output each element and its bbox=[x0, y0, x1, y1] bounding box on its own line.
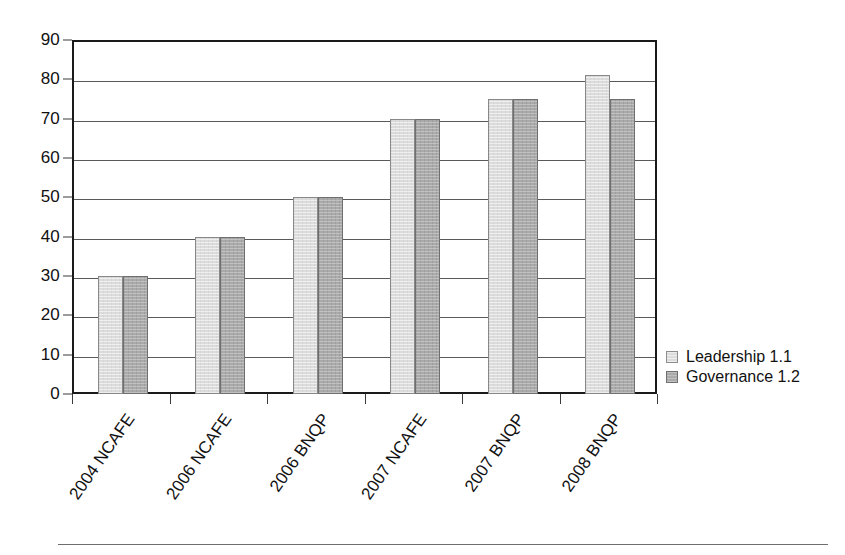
bar bbox=[513, 99, 538, 394]
legend-swatch-icon bbox=[666, 351, 678, 363]
y-tick-mark bbox=[63, 354, 72, 355]
y-tick-mark bbox=[63, 394, 72, 395]
y-tick-label: 10 bbox=[41, 345, 60, 365]
bar bbox=[488, 99, 513, 394]
x-tick-mark bbox=[72, 394, 73, 404]
y-tick-mark bbox=[63, 158, 72, 159]
y-tick-mark bbox=[63, 118, 72, 119]
y-tick-label: 60 bbox=[41, 148, 60, 168]
x-tick-mark bbox=[560, 394, 561, 404]
page-divider-rule bbox=[58, 544, 828, 545]
bars-layer bbox=[72, 40, 657, 394]
y-tick-label: 80 bbox=[41, 69, 60, 89]
chart-legend: Leadership 1.1Governance 1.2 bbox=[666, 348, 800, 388]
y-tick-mark bbox=[63, 315, 72, 316]
bar bbox=[610, 99, 635, 394]
y-tick-mark bbox=[63, 197, 72, 198]
x-tick-label: 2004 NCAFE bbox=[65, 410, 139, 504]
bar-chart-figure: 0102030405060708090 2004 NCAFE2006 NCAFE… bbox=[0, 0, 845, 555]
x-axis: 2004 NCAFE2006 NCAFE2006 BNQP2007 NCAFE2… bbox=[72, 394, 657, 544]
x-tick-label: 2006 BNQP bbox=[266, 410, 334, 496]
bar bbox=[220, 237, 245, 394]
bar bbox=[123, 276, 148, 394]
x-tick-label: 2007 NCAFE bbox=[358, 410, 432, 504]
y-axis: 0102030405060708090 bbox=[0, 0, 72, 440]
x-tick-mark bbox=[170, 394, 171, 404]
y-tick-label: 40 bbox=[41, 227, 60, 247]
y-tick-label: 70 bbox=[41, 109, 60, 129]
legend-swatch-icon bbox=[666, 371, 678, 383]
bar bbox=[98, 276, 123, 394]
x-tick-mark bbox=[657, 394, 658, 404]
legend-label: Leadership 1.1 bbox=[686, 348, 792, 366]
legend-item: Leadership 1.1 bbox=[666, 348, 800, 366]
x-tick-mark bbox=[365, 394, 366, 404]
bar bbox=[318, 197, 343, 394]
y-tick-mark bbox=[63, 79, 72, 80]
y-tick-mark bbox=[63, 236, 72, 237]
bar bbox=[415, 119, 440, 394]
bar bbox=[293, 197, 318, 394]
x-tick-mark bbox=[462, 394, 463, 404]
y-tick-label: 0 bbox=[50, 384, 60, 404]
y-tick-label: 50 bbox=[41, 187, 60, 207]
x-tick-label: 2007 BNQP bbox=[461, 410, 529, 496]
x-tick-mark bbox=[267, 394, 268, 404]
legend-item: Governance 1.2 bbox=[666, 368, 800, 386]
y-tick-label: 20 bbox=[41, 305, 60, 325]
x-tick-label: 2006 NCAFE bbox=[163, 410, 237, 504]
bar bbox=[390, 119, 415, 394]
y-tick-label: 30 bbox=[41, 266, 60, 286]
y-tick-mark bbox=[63, 40, 72, 41]
y-tick-label: 90 bbox=[41, 30, 60, 50]
x-tick-label: 2008 BNQP bbox=[558, 410, 626, 496]
legend-label: Governance 1.2 bbox=[686, 368, 800, 386]
y-tick-mark bbox=[63, 276, 72, 277]
bar bbox=[195, 237, 220, 394]
bar bbox=[585, 75, 610, 394]
